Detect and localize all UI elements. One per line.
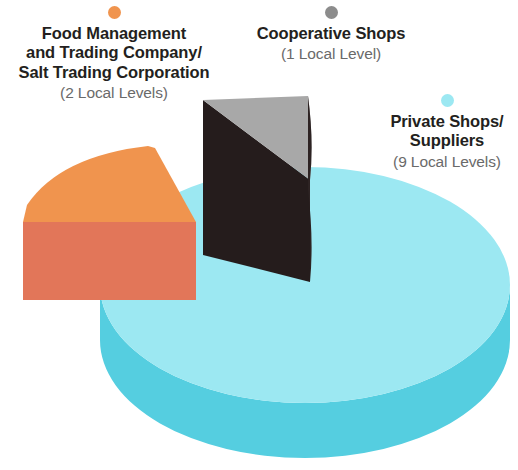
pie-slice-food-management bbox=[23, 146, 196, 300]
label-cooperative-shops-title: Cooperative Shops bbox=[246, 24, 416, 43]
label-private-shops-title: Private Shops/ Suppliers bbox=[376, 112, 518, 151]
label-food-management-sub: (2 Local Levels) bbox=[0, 84, 228, 102]
legend-dot-food-management bbox=[108, 6, 121, 19]
label-cooperative-shops-sub: (1 Local Level) bbox=[246, 45, 416, 63]
pie-chart-figure: Food Management and Trading Company/ Sal… bbox=[0, 0, 518, 470]
label-cooperative-shops: Cooperative Shops (1 Local Level) bbox=[246, 6, 416, 64]
legend-dot-cooperative-shops bbox=[325, 6, 338, 19]
pie-slice-food-management-side bbox=[23, 222, 196, 300]
label-private-shops-sub: (9 Local Levels) bbox=[376, 153, 518, 171]
pie-slice-cooperative-shops bbox=[203, 96, 312, 282]
label-food-management-title: Food Management and Trading Company/ Sal… bbox=[0, 24, 228, 82]
label-private-shops: Private Shops/ Suppliers (9 Local Levels… bbox=[376, 94, 518, 171]
label-food-management: Food Management and Trading Company/ Sal… bbox=[0, 6, 228, 103]
pie-slice-food-management-top bbox=[23, 146, 196, 222]
legend-dot-private-shops bbox=[441, 94, 454, 107]
